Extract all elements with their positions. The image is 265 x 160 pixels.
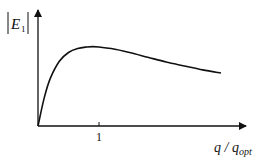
svg-text:E: E [10, 16, 20, 32]
curve-series-E1 [38, 47, 221, 126]
svg-text:1: 1 [21, 24, 26, 34]
svg-text:q / qopt: q / qopt [214, 140, 252, 157]
x-tick-label-1: 1 [96, 130, 102, 144]
y-axis-label: E 1 [8, 12, 28, 34]
x-axis-label: q / qopt [214, 140, 252, 157]
chart: 1 E 1 q / qopt [0, 0, 265, 160]
